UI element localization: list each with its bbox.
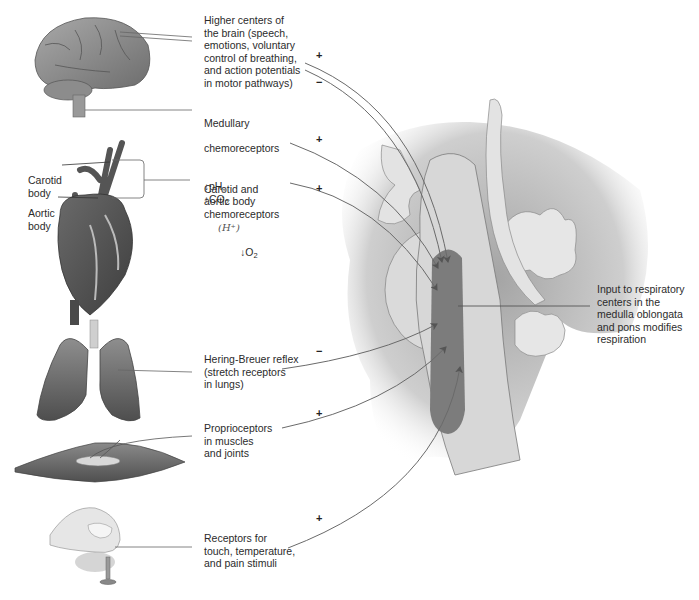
medullary-plus-sign: +	[316, 133, 322, 145]
carotid-aortic-plus-sign: +	[316, 182, 322, 194]
respiration-control-diagram: Carotid body Aortic body Higher centers …	[0, 0, 699, 600]
aortic-body-label: Aortic body	[28, 207, 55, 232]
respiratory-center	[430, 249, 465, 434]
heart-illustration	[58, 143, 190, 325]
carotid-aortic-label: Carotid and aortic body chemoreceptors ↓…	[204, 170, 294, 275]
higher-centers-label: Higher centers of the brain (speech, emo…	[204, 14, 300, 90]
diagram-artwork	[0, 0, 699, 600]
hering-breuer-minus-sign: −	[316, 345, 322, 357]
hering-breuer-label: Hering-Breuer reflex (stretch receptors …	[204, 353, 299, 391]
brain-illustration	[35, 18, 192, 117]
carotid-body-label: Carotid body	[28, 174, 62, 199]
medullary-line1: Medullary	[204, 117, 279, 130]
medullary-line2: chemoreceptors	[204, 142, 279, 155]
respiratory-center-output-label: Input to respiratory centers in the medu…	[597, 283, 685, 346]
lungs-illustration	[37, 320, 192, 421]
muscle-illustration	[15, 436, 192, 482]
touch-receptors-plus-sign: +	[316, 512, 322, 524]
proprioceptors-label: Proprioceptors in muscles and joints	[204, 422, 272, 460]
touch-receptors-label: Receptors for touch, temperature, and pa…	[204, 532, 295, 570]
o2-stimulus: ↓O2	[204, 233, 294, 262]
o2-subscript: 2	[254, 251, 258, 260]
finger-pin-illustration	[50, 508, 192, 585]
higher-centers-plus-sign: +	[316, 49, 322, 61]
proprioceptors-plus-sign: +	[316, 407, 322, 419]
o2-text: O	[245, 246, 253, 258]
higher-centers-minus-sign: −	[316, 76, 322, 88]
carotid-aortic-text: Carotid and aortic body chemoreceptors	[204, 183, 294, 221]
